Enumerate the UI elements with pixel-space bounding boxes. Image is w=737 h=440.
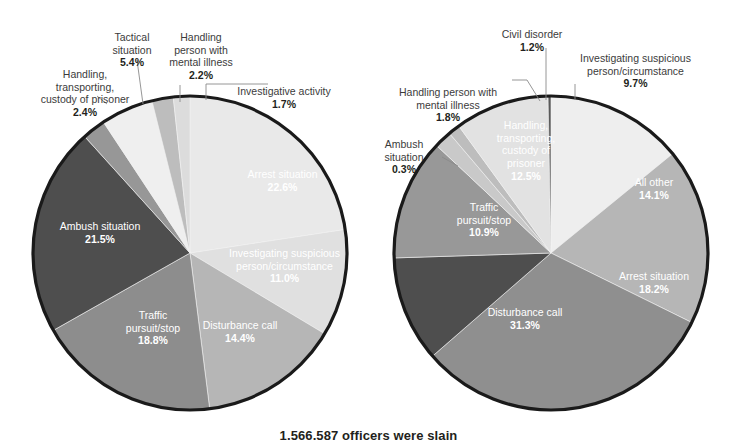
label-percent: 9.7%	[563, 77, 708, 89]
label-percent: 1.7%	[220, 98, 348, 110]
right-all-other-label: All other14.1%	[635, 176, 674, 201]
label-text: Investigating suspicious person/circumst…	[580, 52, 691, 76]
label-percent: 2.4%	[24, 106, 146, 118]
label-text: Investigative activity	[237, 85, 330, 97]
label-text: Handling person with mental illness	[399, 86, 497, 110]
label-text: Tactical situation	[112, 31, 151, 55]
left-label-investigative-activity: Investigative activity 1.7%	[220, 73, 348, 123]
pie-chart-figure: Arrest situation22.6%Investigating suspi…	[0, 0, 737, 440]
label-text: Ambush situation	[384, 138, 423, 162]
label-percent: 1.8%	[386, 111, 510, 123]
label-text: Handling person with mental illness	[169, 31, 233, 68]
right-label-ambush-situation: Ambush situation 0.3%	[368, 126, 440, 188]
label-text: Civil disorder	[502, 28, 563, 40]
left-label-tactical-situation: Tactical situation 5.4%	[96, 19, 168, 81]
label-percent: 0.3%	[368, 163, 440, 175]
figure-caption-cutoff: 1,566,587 officers were slain	[0, 428, 737, 440]
label-percent: 5.4%	[96, 56, 168, 68]
right-label-investigating-suspicious-person: Investigating suspicious person/circumst…	[563, 40, 708, 102]
